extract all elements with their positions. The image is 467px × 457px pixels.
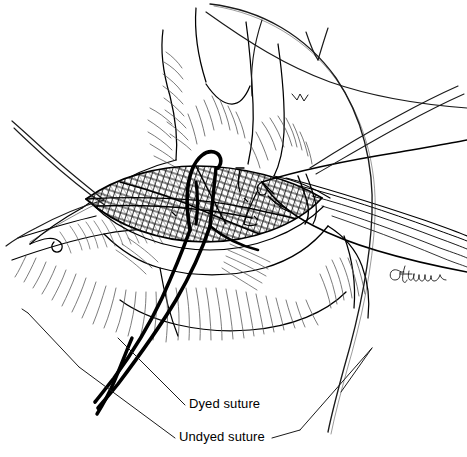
tissue-hatching-upper	[148, 52, 245, 168]
label-undyed-suture: Undyed suture	[179, 429, 265, 444]
artist-signature	[390, 266, 446, 282]
label-dyed-suture: Dyed suture	[189, 396, 260, 411]
surgical-illustration-figure: Dyed suture Undyed suture	[0, 0, 467, 457]
tissue-hatching-right-lower-lobe	[320, 258, 365, 308]
illustration-canvas	[0, 0, 467, 457]
